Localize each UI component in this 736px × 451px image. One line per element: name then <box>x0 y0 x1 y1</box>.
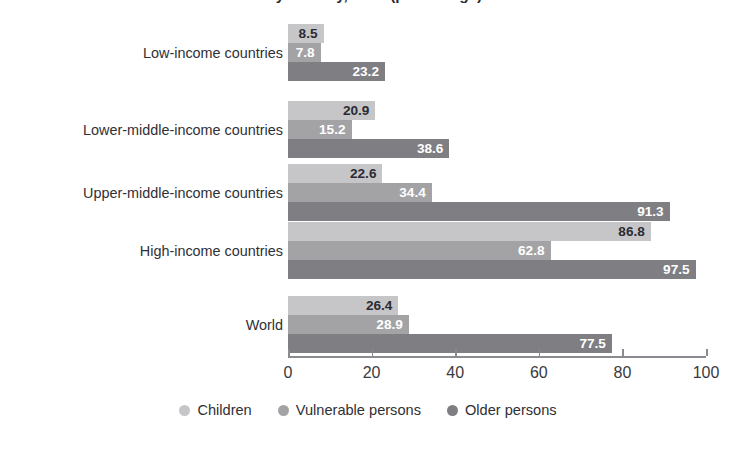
bar-row: 22.6 <box>288 164 706 183</box>
x-axis-tick <box>706 349 708 356</box>
bar-row: 97.5 <box>288 260 706 279</box>
bar-value-label: 62.8 <box>518 242 544 259</box>
bar-row: 8.5 <box>288 24 706 43</box>
chart-legend: ChildrenVulnerable personsOlder persons <box>0 402 736 418</box>
x-axis-tick-label: 0 <box>284 364 293 382</box>
x-axis-tick-label: 40 <box>446 364 464 382</box>
bar-value-label: 97.5 <box>663 261 689 278</box>
legend-label: Children <box>197 402 251 418</box>
x-axis-tick-label: 20 <box>363 364 381 382</box>
bar-row: 20.9 <box>288 101 706 120</box>
bar-older-persons <box>288 202 670 221</box>
bar-value-label: 7.8 <box>296 44 315 61</box>
category-label: World <box>13 318 283 332</box>
legend-label: Vulnerable persons <box>296 402 421 418</box>
bar-row: 62.8 <box>288 241 706 260</box>
legend-label: Older persons <box>465 402 557 418</box>
chart-plot-area: Low-income countries8.57.823.2Lower-midd… <box>0 0 736 451</box>
bar-value-label: 23.2 <box>353 63 379 80</box>
bar-value-label: 77.5 <box>579 335 605 352</box>
bar-value-label: 20.9 <box>343 102 369 119</box>
legend-swatch-circle-icon <box>179 405 190 416</box>
x-axis-line <box>288 356 706 358</box>
bar-row: 7.8 <box>288 43 706 62</box>
x-axis-tick <box>288 349 290 356</box>
bar-value-label: 86.8 <box>618 223 644 240</box>
x-axis-tick-label: 100 <box>693 364 720 382</box>
category-label: High-income countries <box>13 244 283 258</box>
bar-row: 91.3 <box>288 202 706 221</box>
bar-value-label: 15.2 <box>319 121 345 138</box>
bar-value-label: 91.3 <box>637 203 663 220</box>
bar-vulnerable-persons <box>288 241 551 260</box>
legend-swatch-circle-icon <box>447 405 458 416</box>
bar-row: 86.8 <box>288 222 706 241</box>
legend-item-older-persons[interactable]: Older persons <box>447 402 557 418</box>
category-label: Lower-middle-income countries <box>13 123 283 137</box>
bar-value-label: 22.6 <box>350 165 376 182</box>
bar-value-label: 26.4 <box>366 297 392 314</box>
bar-older-persons <box>288 334 612 353</box>
x-axis-tick-label: 60 <box>530 364 548 382</box>
legend-item-vulnerable-persons[interactable]: Vulnerable persons <box>278 402 421 418</box>
x-axis-tick <box>622 349 624 356</box>
bar-row: 34.4 <box>288 183 706 202</box>
category-label: Low-income countries <box>13 46 283 60</box>
bar-value-label: 38.6 <box>417 140 443 157</box>
bar-row: 23.2 <box>288 62 706 81</box>
bar-row: 15.2 <box>288 120 706 139</box>
legend-item-children[interactable]: Children <box>179 402 251 418</box>
x-axis-tick-label: 80 <box>613 364 631 382</box>
bar-value-label: 34.4 <box>399 184 425 201</box>
bar-value-label: 8.5 <box>299 25 318 42</box>
bar-row: 77.5 <box>288 334 706 353</box>
x-axis-tick <box>539 349 541 356</box>
bar-row: 26.4 <box>288 296 706 315</box>
category-label: Upper-middle-income countries <box>13 186 283 200</box>
bar-row: 28.9 <box>288 315 706 334</box>
bar-older-persons <box>288 260 696 279</box>
x-axis-tick <box>455 349 457 356</box>
legend-swatch-circle-icon <box>278 405 289 416</box>
bar-row: 38.6 <box>288 139 706 158</box>
bar-children <box>288 222 651 241</box>
x-axis-tick <box>372 349 374 356</box>
bar-value-label: 28.9 <box>376 316 402 333</box>
